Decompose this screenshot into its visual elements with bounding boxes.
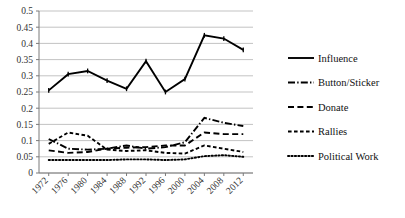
y-tick-label: 0.3 — [21, 71, 33, 81]
x-axis-ticks: 1972197619801984198819921996200020042008… — [30, 173, 245, 196]
y-tick-label: 0.25 — [16, 87, 33, 97]
y-tick-label: 0.1 — [21, 136, 33, 146]
y-axis-ticks: 00.050.10.150.20.250.30.350.40.450.5 — [16, 6, 39, 178]
legend-label: Political Work — [318, 151, 379, 162]
legend-item-donate[interactable]: Donate — [288, 102, 349, 113]
x-tick-label: 2004 — [185, 175, 206, 196]
legend: InfluenceButton/StickerDonateRalliesPoli… — [288, 53, 380, 162]
series-line-political-work — [49, 155, 244, 160]
y-tick-label: 0.5 — [21, 6, 33, 16]
legend-item-button-sticker[interactable]: Button/Sticker — [288, 77, 380, 88]
legend-label: Rallies — [318, 126, 347, 137]
series-line-rallies — [49, 133, 244, 154]
legend-item-influence[interactable]: Influence — [288, 53, 358, 64]
legend-label: Button/Sticker — [318, 77, 380, 88]
y-tick-label: 0.35 — [16, 55, 33, 65]
y-tick-label: 0.15 — [16, 120, 33, 130]
y-tick-label: 0.2 — [21, 104, 33, 114]
x-tick-label: 2000 — [166, 175, 187, 196]
x-tick-label: 1976 — [49, 175, 70, 196]
legend-item-rallies[interactable]: Rallies — [288, 126, 347, 137]
x-tick-label: 1992 — [127, 175, 148, 196]
y-tick-label: 0.45 — [16, 23, 33, 33]
legend-label: Donate — [318, 102, 349, 113]
y-tick-label: 0 — [28, 168, 33, 178]
x-tick-label: 1984 — [88, 175, 109, 196]
x-tick-label: 2012 — [224, 175, 245, 196]
legend-label: Influence — [318, 53, 358, 64]
x-tick-label: 1980 — [69, 175, 90, 196]
line-chart: 00.050.10.150.20.250.30.350.40.450.51972… — [0, 0, 405, 218]
x-tick-label: 2008 — [205, 175, 226, 196]
x-tick-label: 1988 — [107, 175, 128, 196]
y-tick-label: 0.05 — [16, 152, 33, 162]
legend-item-political-work[interactable]: Political Work — [288, 151, 379, 162]
chart-container: 00.050.10.150.20.250.30.350.40.450.51972… — [0, 0, 405, 218]
series-line-influence — [49, 35, 244, 92]
y-tick-label: 0.4 — [21, 39, 33, 49]
x-tick-label: 1996 — [146, 175, 167, 196]
